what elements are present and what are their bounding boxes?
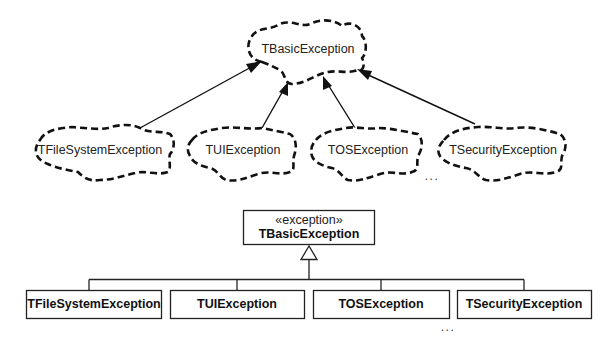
diagram-canvas: TBasicException TFileSystemException TUI…	[0, 0, 612, 339]
generalization-triangle-icon	[301, 246, 317, 260]
cloud-label: TFileSystemException	[38, 143, 162, 157]
uml-class-tuiexception: TUIException	[171, 291, 305, 319]
cloud-tfilesystemexception: TFileSystemException	[36, 125, 174, 180]
ellipsis-more-classes: ...	[425, 169, 440, 183]
arrow-tui	[262, 89, 284, 128]
class-name: TBasicException	[259, 227, 360, 241]
uml-class-tosexception: TOSException	[314, 291, 450, 319]
cloud-tosexception: TOSException	[311, 127, 422, 180]
ellipsis-more-classes: ...	[441, 320, 456, 334]
cloud-tuiexception: TUIException	[188, 127, 296, 180]
cloud-tbasicexception: TBasicException	[248, 20, 365, 84]
arrow-head-icon	[246, 61, 262, 73]
cloud-label: TBasicException	[261, 42, 354, 56]
arrow-tos	[327, 83, 355, 128]
class-name: TSecurityException	[466, 297, 583, 311]
uml-class-tsecurityexception: TSecurityException	[458, 291, 592, 319]
cloud-label: TOSException	[328, 143, 408, 157]
booch-class-diagram: TBasicException TFileSystemException TUI…	[36, 20, 566, 183]
class-name: TUIException	[197, 297, 277, 311]
uml-class-tfilesystemexception: TFileSystemException	[27, 291, 162, 319]
arrow-tfilesystem	[140, 65, 255, 128]
cloud-label: TSecurityException	[449, 143, 557, 157]
class-name: TFileSystemException	[27, 297, 160, 311]
cloud-label: TUIException	[205, 143, 280, 157]
arrow-head-icon	[279, 82, 288, 96]
arrow-tsecurity	[364, 73, 475, 124]
uml-class-diagram: «exception» TBasicException TFileSystemE…	[27, 211, 592, 335]
cloud-tsecurityexception: TSecurityException	[438, 127, 565, 181]
uml-class-tbasicexception: «exception» TBasicException	[244, 211, 375, 245]
stereotype-label: «exception»	[275, 213, 342, 227]
arrow-head-icon	[357, 69, 372, 80]
class-name: TOSException	[338, 297, 423, 311]
